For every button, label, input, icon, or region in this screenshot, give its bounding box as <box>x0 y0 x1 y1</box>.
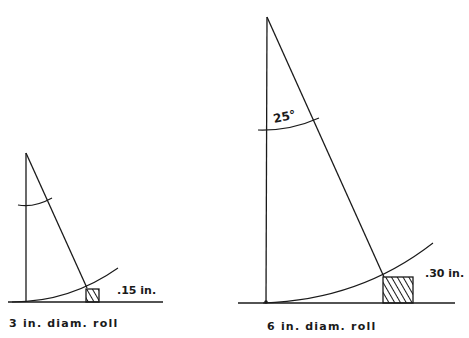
angled-line <box>267 17 384 277</box>
caption: 6 in. diam. roll <box>267 320 376 333</box>
roll-comparison-diagram: .15 in. 3 in. diam. roll 25° .30 in. 6 i… <box>0 0 469 338</box>
caption: 3 in. diam. roll <box>9 317 118 330</box>
roll-arc <box>12 268 118 302</box>
hatched-block <box>383 277 413 303</box>
vertex-dot <box>264 300 268 304</box>
dimension-label: .30 in. <box>425 267 464 280</box>
large-roll-diagram: 25° .30 in. 6 in. diam. roll <box>238 17 464 333</box>
vertical-line <box>266 17 267 303</box>
hatched-block <box>86 289 99 302</box>
angled-line <box>26 153 87 288</box>
angle-label: 25° <box>272 107 297 125</box>
dimension-label: .15 in. <box>117 284 156 297</box>
small-roll-diagram: .15 in. 3 in. diam. roll <box>8 153 163 330</box>
